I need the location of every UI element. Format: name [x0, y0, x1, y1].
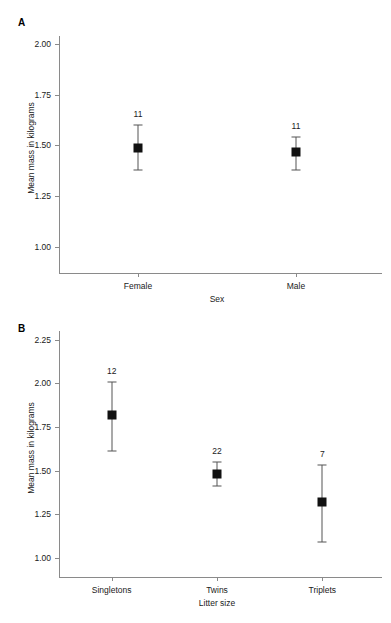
- data-point-count-label: 12: [107, 366, 116, 376]
- y-axis-tick: [55, 44, 59, 45]
- y-axis-tick: [55, 247, 59, 248]
- y-axis-tick: [55, 145, 59, 146]
- x-axis-tick-label: Triplets: [309, 585, 337, 595]
- y-axis-tick: [55, 558, 59, 559]
- data-point-count-label: 11: [292, 121, 301, 131]
- error-bar-cap-lower: [318, 542, 327, 543]
- panel-b-plot-area: 1.001.251.501.752.002.25Mean mass in kil…: [0, 311, 391, 623]
- error-bar-cap-lower: [107, 451, 116, 452]
- y-axis-tick: [55, 196, 59, 197]
- data-point-marker: [107, 410, 116, 419]
- data-point-count-label: 22: [212, 446, 221, 456]
- error-bar-cap-upper: [318, 465, 327, 466]
- error-bar-cap-upper: [213, 461, 222, 462]
- x-axis-tick: [322, 577, 323, 581]
- panel-a-plot-area: 1.001.251.501.752.00Mean mass in kilogra…: [0, 0, 391, 311]
- y-axis-tick: [55, 514, 59, 515]
- y-axis-tick: [55, 340, 59, 341]
- y-axis-title: Mean mass in kilograms: [26, 36, 36, 259]
- x-axis-tick-label: Male: [287, 281, 305, 291]
- y-axis-tick: [55, 383, 59, 384]
- data-point-marker: [213, 470, 222, 479]
- x-axis-line: [59, 577, 382, 578]
- x-axis-tick-label: Female: [124, 281, 152, 291]
- error-bar-cap-upper: [292, 137, 301, 138]
- error-bar-cap-lower: [213, 486, 222, 487]
- y-axis-line: [59, 331, 60, 577]
- x-axis-title: Sex: [210, 294, 225, 304]
- y-axis-title: Mean mass in kilograms: [26, 331, 36, 565]
- panel-b: B 1.001.251.501.752.002.25Mean mass in k…: [0, 311, 391, 623]
- data-point-marker: [292, 147, 301, 156]
- y-axis-line: [59, 36, 60, 273]
- y-axis-tick: [55, 471, 59, 472]
- data-point-marker: [318, 498, 327, 507]
- x-axis-tick-label: Twins: [206, 585, 228, 595]
- x-axis-tick: [217, 577, 218, 581]
- data-point-marker: [134, 143, 143, 152]
- x-axis-tick: [138, 273, 139, 277]
- x-axis-tick-label: Singletons: [92, 585, 132, 595]
- error-bar-cap-lower: [134, 169, 143, 170]
- figure-two-panel-error-bar-plot: A 1.001.251.501.752.00Mean mass in kilog…: [0, 0, 391, 623]
- x-axis-line: [59, 273, 382, 274]
- data-point-count-label: 11: [134, 109, 143, 119]
- x-axis-tick: [296, 273, 297, 277]
- x-axis-title: Litter size: [199, 598, 235, 608]
- error-bar-cap-upper: [134, 125, 143, 126]
- error-bar-cap-lower: [292, 169, 301, 170]
- error-bar-cap-upper: [107, 381, 116, 382]
- y-axis-tick: [55, 95, 59, 96]
- y-axis-tick: [55, 427, 59, 428]
- data-point-count-label: 7: [320, 449, 325, 459]
- x-axis-tick: [112, 577, 113, 581]
- panel-a: A 1.001.251.501.752.00Mean mass in kilog…: [0, 0, 391, 311]
